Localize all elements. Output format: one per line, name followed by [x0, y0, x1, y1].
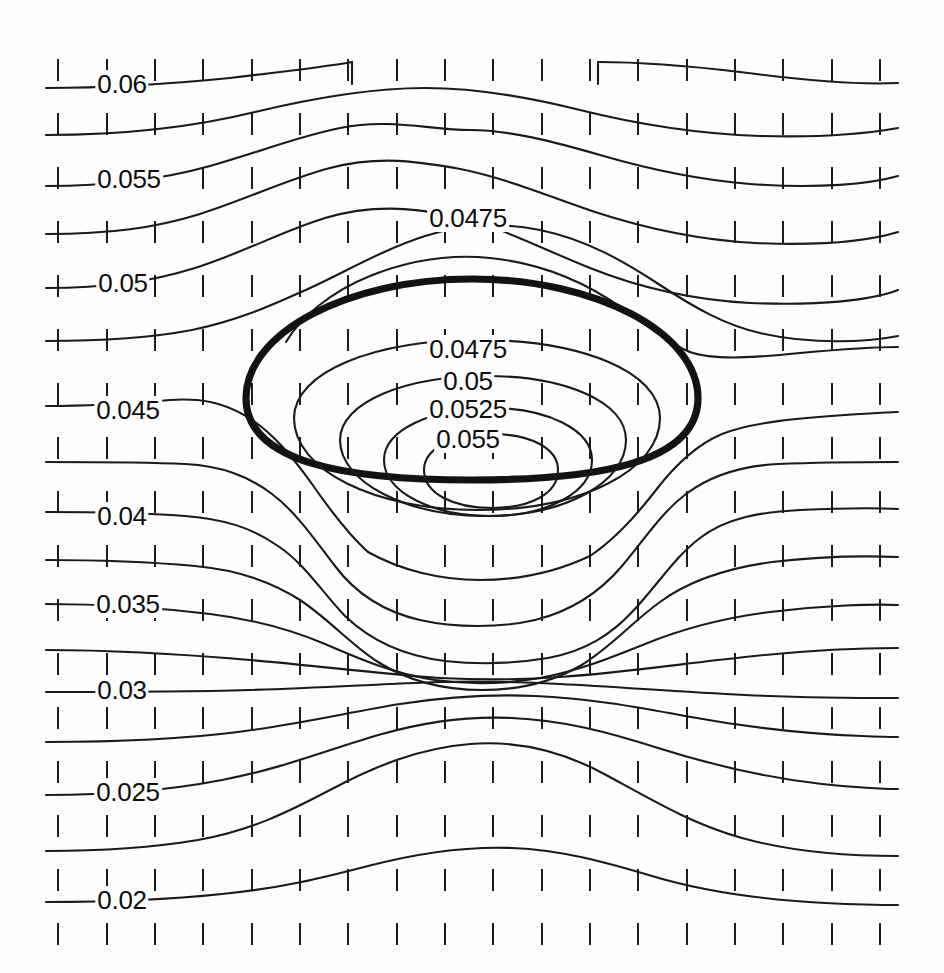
tick-grid [58, 59, 880, 945]
contour-path-0055 [46, 124, 898, 186]
contour-path-0045-bottom [368, 552, 590, 580]
contour-label-0.0525: 0.0525 [427, 395, 509, 423]
contour-path-5 [46, 557, 898, 690]
contour-label-0.03: 0.03 [95, 676, 148, 704]
contour-plot-canvas [0, 0, 944, 973]
contour-label-0.055: 0.055 [434, 425, 502, 453]
contour-path-0040 [46, 508, 898, 663]
contour-label-0.06: 0.06 [95, 70, 148, 98]
contour-path-8 [46, 743, 898, 856]
contour-plot-figure: 0.060.0550.04750.050.04750.050.0450.0525… [0, 0, 944, 973]
contour-path-0045-r [590, 412, 898, 556]
contour-label-0.04: 0.04 [95, 502, 148, 530]
contour-path-0020 [46, 848, 898, 905]
contour-label-0.0475: 0.0475 [427, 335, 509, 363]
contour-path-top-1 [46, 62, 352, 88]
contour-label-0.035: 0.035 [94, 590, 162, 618]
contour-label-0.02: 0.02 [95, 886, 148, 914]
contour-path-0475-arch [286, 257, 898, 358]
contour-label-0.055: 0.055 [95, 165, 163, 193]
contour-path-top-1b [598, 62, 898, 83]
contour-label-0.05: 0.05 [441, 367, 494, 395]
contour-label-0.0475: 0.0475 [427, 204, 509, 232]
contour-path-0035 [46, 604, 898, 683]
contour-label-0.045: 0.045 [94, 396, 162, 424]
contour-label-0.025: 0.025 [94, 778, 162, 806]
contour-label-0.05: 0.05 [96, 269, 149, 297]
contour-path-4 [46, 462, 898, 626]
contour-line-group [46, 62, 898, 905]
